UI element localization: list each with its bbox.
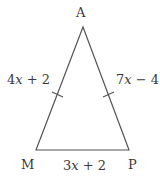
side-am-rest: + 2: [23, 72, 50, 87]
vertex-label-p: P: [128, 158, 137, 171]
vertex-label-a: A: [76, 6, 85, 19]
side-mp-rest: + 2: [79, 158, 106, 173]
side-label-ap: 7x − 4: [116, 73, 159, 86]
side-label-mp: 3x + 2: [63, 159, 106, 172]
triangle-amp: [36, 27, 129, 150]
side-mp-var: x: [71, 158, 78, 173]
side-am-var: x: [15, 72, 22, 87]
vertex-label-m: M: [21, 158, 34, 171]
side-label-am: 4x + 2: [7, 73, 50, 86]
side-ap-var: x: [124, 72, 131, 87]
triangle-figure: [0, 0, 160, 180]
side-ap-rest: − 4: [132, 72, 159, 87]
triangle-diagram: A M P 4x + 2 7x − 4 3x + 2: [0, 0, 160, 180]
